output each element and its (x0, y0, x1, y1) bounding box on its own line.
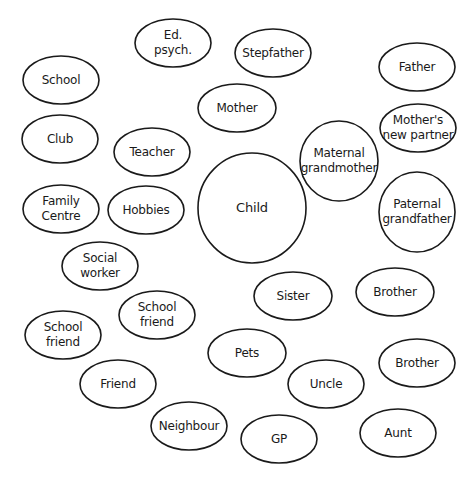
node-label: Child (236, 200, 268, 215)
node-mother: Mother (198, 84, 276, 132)
node-mothers-new-partner: Mother'snew partner (380, 104, 456, 152)
node-club: Club (22, 115, 98, 163)
node-label: Stepfather (242, 46, 304, 60)
node-label: GP (271, 432, 287, 446)
node-label: Friend (100, 377, 136, 391)
node-label: Club (47, 132, 73, 146)
node-label: Mother (216, 101, 257, 115)
node-hobbies: Hobbies (108, 186, 184, 234)
node-brother-1: Brother (356, 268, 434, 316)
node-school-friend-1: Schoolfriend (119, 291, 195, 339)
node-label: new partner (383, 128, 454, 142)
ecomap-diagram: ChildEd.psych.StepfatherSchoolFatherMoth… (0, 0, 475, 483)
node-label: Centre (42, 209, 81, 223)
node-uncle: Uncle (288, 360, 364, 408)
node-gp: GP (241, 415, 317, 463)
node-social-worker: Socialworker (62, 242, 138, 290)
node-school-friend-2: Schoolfriend (25, 311, 101, 359)
node-label: friend (140, 315, 174, 329)
node-label: Social (83, 251, 117, 265)
node-stepfather: Stepfather (235, 29, 311, 77)
node-neighbour: Neighbour (151, 402, 227, 450)
node-child: Child (198, 153, 306, 263)
node-label: Teacher (128, 145, 174, 159)
node-friend: Friend (80, 360, 156, 408)
node-label: Father (399, 60, 436, 74)
node-teacher: Teacher (114, 128, 190, 176)
node-label: Sister (276, 289, 309, 303)
node-label: psych. (154, 43, 192, 57)
node-label: Mother's (393, 113, 443, 127)
node-brother-2: Brother (379, 339, 455, 387)
node-maternal-grandmother: Maternalgrandmother (300, 121, 378, 201)
node-father: Father (379, 43, 455, 91)
node-label: Hobbies (122, 203, 169, 217)
node-label: Aunt (384, 426, 412, 440)
node-paternal-grandfather: Paternalgrandfather (379, 172, 455, 252)
node-label: grandmother (301, 161, 378, 175)
node-label: School (42, 73, 81, 87)
node-label: Ed. (164, 28, 182, 42)
node-label: Uncle (310, 377, 343, 391)
node-sister: Sister (254, 272, 332, 320)
node-school: School (23, 56, 99, 104)
node-label: Neighbour (159, 419, 220, 433)
node-pets: Pets (208, 329, 286, 377)
node-aunt: Aunt (360, 409, 436, 457)
node-label: Family (42, 194, 80, 208)
node-label: School (138, 300, 177, 314)
node-label: Paternal (393, 197, 441, 211)
node-label: Brother (373, 285, 417, 299)
node-label: Maternal (313, 146, 364, 160)
node-ed-psych: Ed.psych. (135, 19, 211, 67)
node-label: Pets (235, 346, 259, 360)
node-label: grandfather (382, 212, 451, 226)
node-label: School (44, 320, 83, 334)
node-label: Brother (395, 356, 439, 370)
node-family-centre: FamilyCentre (23, 185, 99, 233)
node-label: friend (46, 335, 80, 349)
node-label: worker (80, 266, 120, 280)
